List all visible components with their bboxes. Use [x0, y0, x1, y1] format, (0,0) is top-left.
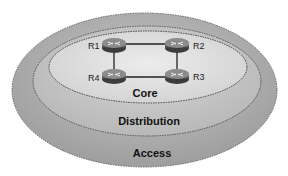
router-top: [102, 38, 126, 48]
router-label-r4: R4: [88, 73, 100, 83]
router-label-r1: R1: [88, 41, 100, 51]
router-r1: [102, 38, 126, 53]
core-label: Core: [132, 87, 157, 99]
router-top: [165, 69, 189, 79]
router-top: [102, 69, 126, 79]
router-r2: [165, 38, 189, 53]
layer-core: Core: [49, 31, 247, 103]
router-r4: [102, 69, 126, 84]
hierarchical-network-diagram: Access Distribution Core R1 R2 R3: [0, 0, 288, 176]
router-r3: [165, 69, 189, 84]
distribution-label: Distribution: [118, 115, 180, 127]
router-label-r3: R3: [193, 72, 205, 82]
access-label: Access: [133, 147, 172, 159]
router-top: [165, 38, 189, 48]
router-label-r2: R2: [193, 41, 205, 51]
